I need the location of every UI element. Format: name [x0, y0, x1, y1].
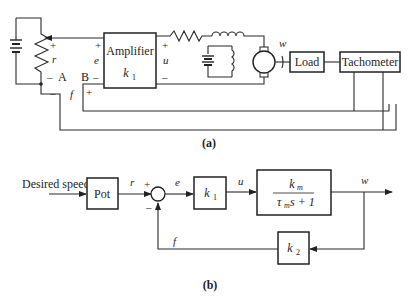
f-signal-label: f: [173, 235, 178, 247]
k2-label: k: [287, 241, 293, 255]
u-label: u: [163, 54, 169, 66]
k2-block: k 2: [278, 232, 309, 264]
figure-b-block-diagram: Desired speed Pot r + – e k 1 u k m τ m …: [22, 170, 392, 292]
plant-den-rest: s + 1: [290, 195, 315, 209]
figure-a-circuit: + r – A – f + e B – + Amplifier k 1 + u …: [10, 18, 400, 150]
r-minus-sign: –: [46, 71, 53, 83]
pot-block: Pot: [87, 178, 118, 209]
e-minus-sign: –: [92, 71, 99, 83]
summing-junction: [151, 187, 165, 201]
r-plus-sign: +: [50, 39, 56, 51]
amplifier-gain: k: [123, 66, 129, 80]
f-minus-sign: –: [49, 87, 56, 99]
k1-label: k: [204, 186, 210, 200]
summer-minus-sign: –: [145, 201, 152, 213]
plant-den-tau: τ: [277, 195, 282, 209]
k1-sub: 1: [213, 193, 217, 202]
desired-speed-label: Desired speed: [22, 177, 90, 191]
field-circuit-icon: [202, 46, 234, 77]
battery-icon: [10, 18, 41, 84]
r-label: r: [52, 53, 57, 65]
motor-transfer-block: k m τ m s + 1: [257, 170, 331, 215]
e-plus-sign: +: [95, 39, 101, 51]
k2-sub: 2: [296, 248, 300, 257]
figure-a-caption: (a): [202, 136, 216, 150]
speed-control-diagram: + r – A – f + e B – + Amplifier k 1 + u …: [0, 0, 409, 299]
k1-block: k 1: [194, 177, 226, 209]
amplifier-block: Amplifier k 1: [104, 33, 156, 88]
e-label: e: [94, 54, 99, 66]
r-signal-label: r: [130, 176, 135, 188]
w-label-a: w: [279, 37, 287, 49]
e-signal-label: e: [175, 176, 180, 188]
load-label: Load: [295, 55, 320, 69]
tachometer-label: Tachometer: [342, 55, 398, 69]
u-signal-label: u: [238, 175, 244, 187]
plant-num-k: k: [289, 177, 295, 191]
terminal-a-label: A: [58, 70, 67, 84]
amplifier-gain-sub: 1: [132, 73, 136, 82]
tachometer-block: Tachometer: [340, 52, 400, 72]
summer-plus-sign: +: [144, 178, 150, 190]
load-block: Load: [290, 52, 324, 72]
terminal-b-label: B: [81, 70, 89, 84]
figure-b-caption: (b): [203, 278, 218, 292]
u-minus-sign: –: [161, 71, 168, 83]
fb-plus-sign: +: [86, 86, 92, 98]
dc-motor-icon: [156, 47, 290, 84]
w-signal-label: w: [361, 174, 369, 186]
pot-label: Pot: [94, 187, 111, 201]
u-plus-sign: +: [162, 39, 168, 51]
amplifier-label: Amplifier: [106, 44, 153, 58]
f-label: f: [70, 88, 75, 100]
plant-num-sub: m: [297, 183, 303, 192]
potentiometer-icon: [35, 27, 396, 130]
